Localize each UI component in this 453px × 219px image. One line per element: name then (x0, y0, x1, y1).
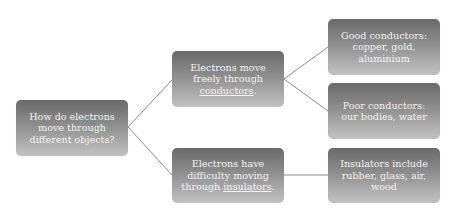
insulators-keyword: insulators (223, 181, 271, 192)
poor-conductors-text: Poor conductors: our bodies, water (334, 100, 434, 123)
conductors-text-tail: . (254, 85, 257, 96)
connector-root-to-conductors (128, 80, 172, 127)
conductors-text-lead: Electrons move freely through (190, 62, 265, 85)
good-conductors-text: Good conductors: copper, gold, aluminium (334, 30, 434, 65)
root-question-node: How do electrons move through different … (16, 100, 128, 156)
good-conductors-node: Good conductors: copper, gold, aluminium (328, 19, 440, 75)
insulators-text-tail: . (272, 181, 275, 192)
insulator-examples-text: Insulators include rubber, glass, air, w… (334, 158, 434, 193)
conductors-node: Electrons move freely through conductors… (172, 51, 284, 107)
insulators-node-text: Electrons have difficulty moving through… (178, 158, 278, 193)
insulators-node: Electrons have difficulty moving through… (172, 148, 284, 203)
poor-conductors-node: Poor conductors: our bodies, water (328, 83, 440, 139)
conductors-keyword: conductors (199, 85, 253, 96)
connector-conductors-to-poor (284, 79, 328, 111)
root-question-text: How do electrons move through different … (22, 111, 122, 146)
connector-conductors-to-good (284, 47, 328, 79)
insulator-examples-node: Insulators include rubber, glass, air, w… (328, 148, 440, 203)
concept-diagram: How do electrons move through different … (0, 0, 453, 219)
conductors-node-text: Electrons move freely through conductors… (178, 62, 278, 97)
connector-root-to-insulators (128, 127, 172, 175)
